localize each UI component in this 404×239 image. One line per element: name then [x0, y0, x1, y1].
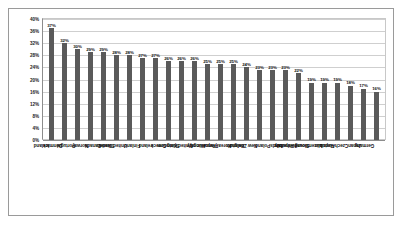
bar-value-label: 27% [151, 53, 159, 58]
bar[interactable] [348, 86, 353, 140]
chart-page: 40%36%32%28%24%20%16%12%8%4%0% 37%32%30%… [0, 0, 404, 239]
bar-value-label: 19% [333, 77, 341, 82]
bar[interactable] [322, 83, 327, 140]
bar-slot: 16% [370, 19, 383, 140]
y-tick-label: 4% [33, 125, 39, 130]
bar[interactable] [374, 92, 379, 140]
category-slot: Belgium [240, 142, 253, 222]
bar-value-label: 19% [307, 77, 315, 82]
bar-slot: 23% [279, 19, 292, 140]
category-slot: Poland [266, 142, 279, 222]
bar-value-label: 25% [203, 59, 211, 64]
bar-slot: 19% [305, 19, 318, 140]
bar-slot: 25% [201, 19, 214, 140]
bar-slot: 19% [318, 19, 331, 140]
bar[interactable] [270, 70, 275, 140]
bar[interactable] [218, 64, 223, 140]
bar-slot: 27% [136, 19, 149, 140]
y-tick-label: 12% [30, 101, 39, 106]
bar-slot: 23% [266, 19, 279, 140]
category-slot: Greece [162, 142, 175, 222]
category-slot: Canada [97, 142, 110, 222]
bar[interactable] [192, 61, 197, 140]
bar-value-label: 28% [125, 50, 133, 55]
bar-value-label: 29% [86, 47, 94, 52]
bar-value-label: 23% [268, 65, 276, 70]
bar[interactable] [257, 70, 262, 140]
bar-slot: 26% [175, 19, 188, 140]
bar-value-label: 25% [216, 59, 224, 64]
bar-value-label: 27% [138, 53, 146, 58]
bar[interactable] [283, 70, 288, 140]
bar[interactable] [101, 52, 106, 140]
y-axis: 40%36%32%28%24%20%16%12%8%4%0% [17, 18, 41, 140]
y-tick-label: 20% [30, 77, 39, 82]
bar[interactable] [62, 43, 67, 140]
bar[interactable] [231, 64, 236, 140]
category-slot: Luxembourg [318, 142, 331, 222]
bar[interactable] [140, 58, 145, 140]
category-slot: Iceland [45, 142, 58, 222]
bar-value-label: 18% [346, 80, 354, 85]
bar-value-label: 29% [99, 47, 107, 52]
category-slot: Spain [175, 142, 188, 222]
bar[interactable] [244, 67, 249, 140]
bar-value-label: 22% [294, 68, 302, 73]
bar[interactable] [114, 55, 119, 140]
bar-slot: 23% [253, 19, 266, 140]
bar-slot: 22% [292, 19, 305, 140]
bar-slot: 17% [357, 19, 370, 140]
bar[interactable] [49, 28, 54, 140]
category-slot: Norway [84, 142, 97, 222]
y-tick-label: 36% [30, 29, 39, 34]
x-axis-categories: IcelandDenmarkPortugalNorwayCanadaSweden… [43, 142, 385, 222]
category-slot: France [214, 142, 227, 222]
bar[interactable] [153, 58, 158, 140]
bar[interactable] [127, 55, 132, 140]
bar-slot: 19% [331, 19, 344, 140]
bar[interactable] [166, 61, 171, 140]
bar-slot: 27% [149, 19, 162, 140]
category-slot: Italy [279, 142, 292, 222]
bar-value-label: 26% [190, 56, 198, 61]
category-slot: New Zealand [253, 142, 266, 222]
bar-slot: 26% [188, 19, 201, 140]
category-label: Germany [354, 143, 374, 148]
category-slot: Japan [357, 142, 370, 222]
bar-value-label: 26% [164, 56, 172, 61]
bar-slot: 29% [97, 19, 110, 140]
bar[interactable] [296, 73, 301, 140]
bar-slot: 25% [227, 19, 240, 140]
bar-series: 37%32%30%29%29%28%28%27%27%26%26%26%25%2… [43, 19, 385, 140]
bar-value-label: 23% [281, 65, 289, 70]
category-slot: Czech Republic [344, 142, 357, 222]
bar[interactable] [309, 83, 314, 140]
category-slot: Denmark [58, 142, 71, 222]
bar[interactable] [179, 61, 184, 140]
bar-value-label: 23% [255, 65, 263, 70]
bar-slot: 30% [71, 19, 84, 140]
bar-value-label: 37% [47, 23, 55, 28]
category-slot: Netherlands [292, 142, 305, 222]
bar-value-label: 30% [73, 44, 81, 49]
category-slot: United Kingdom [188, 142, 201, 222]
y-tick-label: 32% [30, 41, 39, 46]
bar-value-label: 16% [372, 86, 380, 91]
bar[interactable] [335, 83, 340, 140]
bar[interactable] [205, 64, 210, 140]
category-slot: Slovak Republic [305, 142, 318, 222]
category-slot: Finland [136, 142, 149, 222]
bar-slot: 18% [344, 19, 357, 140]
category-label: Korea (Republic of) [189, 143, 230, 148]
category-slot: Sweden [110, 142, 123, 222]
bar[interactable] [75, 49, 80, 140]
bar-slot: 26% [162, 19, 175, 140]
bar[interactable] [361, 89, 366, 140]
y-tick-label: 16% [30, 89, 39, 94]
bar-slot: 28% [123, 19, 136, 140]
y-tick-label: 40% [30, 17, 39, 22]
category-slot: Germany [370, 142, 383, 222]
bar-value-label: 17% [359, 83, 367, 88]
bar-slot: 37% [45, 19, 58, 140]
bar[interactable] [88, 52, 93, 140]
